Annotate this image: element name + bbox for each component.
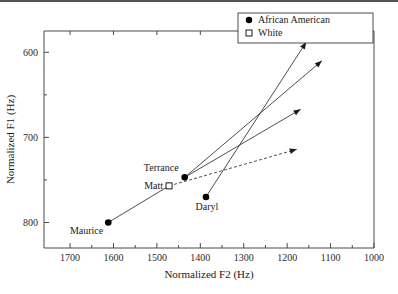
x-tick-label: 1300 [234,252,254,263]
x-tick-label: 1200 [277,252,297,263]
y-axis-title: Normalized F1 (Hz) [4,95,17,185]
scatter-plot: 1700160015001400130012001100100060070080… [0,0,398,294]
data-point-marker-circle[interactable] [105,219,112,226]
legend-label: White [258,27,283,38]
legend-marker-square [246,30,252,36]
data-point-label: Maurice [70,225,104,236]
y-tick-label: 800 [23,217,38,228]
data-point-marker-circle[interactable] [181,174,188,181]
x-tick-label: 1600 [103,252,123,263]
y-tick-label: 700 [23,132,38,143]
x-tick-label: 1000 [364,252,384,263]
y-tick-label: 600 [23,47,38,58]
figure-container: 1700160015001400130012001100100060070080… [0,0,398,294]
trajectory-line [185,109,301,177]
x-tick-label: 1100 [321,252,341,263]
data-point-label: Matt [144,180,163,191]
trajectory-line [185,61,322,178]
x-tick-label: 1500 [147,252,167,263]
plot-frame [44,31,374,248]
trajectory-line [206,42,306,197]
data-point-marker-circle[interactable] [203,194,210,201]
data-point-label: Daryl [196,201,219,212]
legend-marker-circle [246,17,252,23]
arrowhead [289,149,296,154]
data-point-marker-square[interactable] [166,183,172,189]
data-point-label: Terrance [144,162,179,173]
x-tick-label: 1400 [190,252,210,263]
x-axis-title: Normalized F2 (Hz) [164,268,254,281]
x-tick-label: 1700 [60,252,80,263]
legend-label: African American [258,14,330,25]
arrowhead [293,109,300,115]
